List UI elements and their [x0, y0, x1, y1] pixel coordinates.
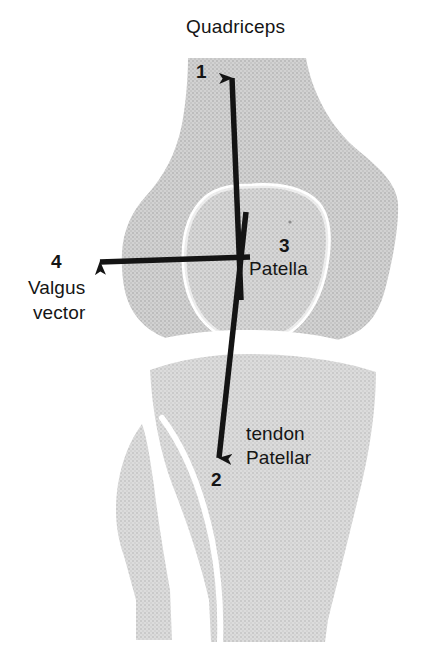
label-valgus-number: 4: [51, 252, 62, 272]
knee-vector-diagram: Quadriceps 1 3 Patella 4 Valgus vector 2…: [0, 0, 433, 664]
label-valgus-line1: Valgus: [28, 278, 85, 298]
label-patella-name: Patella: [249, 259, 308, 279]
tibia-shape: [150, 354, 376, 642]
anatomy-illustration: [0, 0, 433, 664]
label-quadriceps-number: 1: [196, 62, 207, 82]
figure-title: Quadriceps: [186, 17, 285, 37]
label-valgus-line2: vector: [33, 303, 85, 323]
label-patellar-tendon-number: 2: [211, 470, 222, 490]
label-tendon-line2: Patellar: [246, 448, 311, 468]
scan-speck: [288, 220, 291, 223]
label-patella-number: 3: [279, 236, 290, 256]
label-tendon-line1: tendon: [246, 424, 305, 444]
